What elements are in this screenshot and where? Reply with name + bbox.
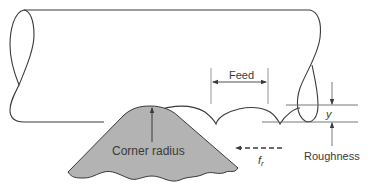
y-label: y [325, 108, 333, 120]
workpiece-left-end [10, 10, 34, 85]
roughness-label: Roughness [304, 150, 360, 162]
diagram-canvas: Corner radius Feed y Roughness fr [0, 0, 370, 189]
svg-text:fr: fr [258, 154, 264, 168]
feed-label: Feed [229, 69, 254, 81]
cutting-tool: Corner radius [68, 106, 238, 181]
workpiece-left-lower [10, 85, 104, 122]
feed-rate-subscript: r [261, 159, 264, 168]
feed-rate-indicator: fr [236, 148, 282, 168]
workpiece [10, 10, 321, 122]
corner-radius-label: Corner radius [112, 144, 185, 158]
roughness-dimension: y Roughness [262, 82, 360, 162]
feed-dimension: Feed [211, 68, 268, 104]
